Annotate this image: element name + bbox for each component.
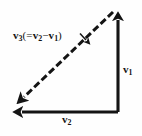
v1-subscript: 1 <box>129 68 133 77</box>
vector-v3-arrow <box>24 12 113 97</box>
vector-label-v1: v1 <box>123 64 132 77</box>
vector-label-v2: v2 <box>62 114 71 127</box>
vector-diagram-figure: v3(=v2−v1) v1 v2 <box>0 0 142 136</box>
vector-label-v3: v3(=v2−v1) <box>13 30 62 43</box>
v3-close-paren: ) <box>58 29 62 41</box>
v2-subscript: 2 <box>68 118 72 127</box>
